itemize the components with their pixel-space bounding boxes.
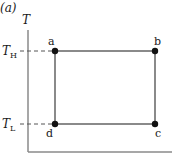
tl-cycle-diagram: (a) T T H T L a b c d	[0, 0, 175, 160]
point-b-label: b	[154, 35, 161, 48]
y-axis-label: T	[22, 13, 31, 27]
level-high-subscript: H	[10, 51, 17, 60]
level-low-label: T L	[2, 117, 16, 133]
point-b	[152, 48, 158, 54]
point-c-label: c	[155, 127, 161, 140]
point-a	[52, 48, 58, 54]
level-low-subscript: L	[10, 124, 16, 133]
level-high-label: T H	[2, 44, 17, 60]
point-a-label: a	[48, 35, 55, 48]
point-d-label: d	[46, 127, 53, 140]
panel-label: (a)	[0, 1, 17, 15]
